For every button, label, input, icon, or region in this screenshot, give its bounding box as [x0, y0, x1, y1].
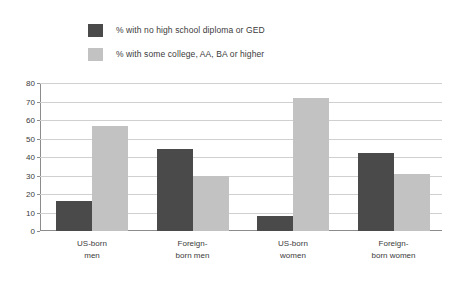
bar	[92, 126, 128, 231]
bar	[56, 201, 92, 231]
legend-label-no-diploma: % with no high school diploma or GED	[116, 25, 265, 35]
y-axis-tick-label: 70	[26, 97, 35, 106]
y-axis-tick-mark	[37, 231, 40, 232]
y-axis-tick-label: 10	[26, 208, 35, 217]
bar	[157, 149, 193, 231]
x-axis-category-label: US-born women	[243, 238, 343, 261]
bars-layer	[40, 83, 442, 231]
bar	[358, 153, 394, 231]
y-axis-tick-label: 20	[26, 190, 35, 199]
bar	[293, 98, 329, 231]
y-axis-tick-label: 40	[26, 153, 35, 162]
y-axis-tick-label: 30	[26, 171, 35, 180]
y-axis-tick-label: 80	[26, 79, 35, 88]
x-axis-category-label: US-born men	[42, 238, 142, 261]
x-axis-category-label: Foreign- born men	[143, 238, 243, 261]
bar-chart: % with no high school diploma or GED % w…	[0, 0, 466, 282]
chart-legend: % with no high school diploma or GED % w…	[88, 18, 428, 66]
x-axis-category-label: Foreign- born women	[344, 238, 444, 261]
y-axis-tick-label: 60	[26, 116, 35, 125]
legend-item-no-diploma: % with no high school diploma or GED	[88, 18, 428, 42]
legend-item-some-college: % with some college, AA, BA or higher	[88, 42, 428, 66]
x-axis-category-labels: US-born menForeign- born menUS-born wome…	[40, 238, 442, 272]
legend-swatch-no-diploma	[88, 24, 103, 37]
y-axis-tick-label: 0	[31, 227, 35, 236]
legend-swatch-some-college	[88, 48, 103, 61]
y-axis-tick-label: 50	[26, 134, 35, 143]
bar	[193, 176, 229, 231]
bar	[394, 174, 430, 231]
bar	[257, 216, 293, 231]
plot-area: 01020304050607080	[40, 83, 442, 231]
legend-label-some-college: % with some college, AA, BA or higher	[116, 49, 264, 59]
